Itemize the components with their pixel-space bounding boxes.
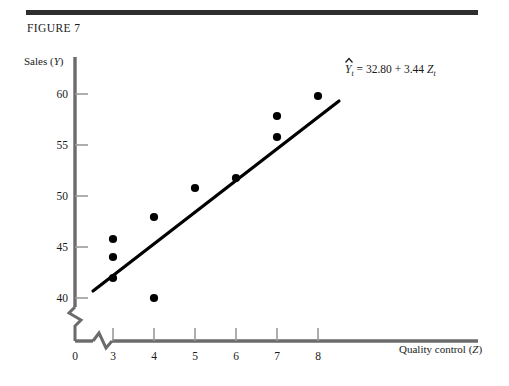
origin-label: 0	[72, 350, 78, 362]
data-point	[273, 133, 281, 141]
x-axis-break-mark	[93, 333, 112, 348]
data-point	[150, 213, 158, 221]
y-tick-label-55: 55	[57, 139, 69, 151]
regression-line-group	[93, 101, 339, 291]
figure-container: FIGURE 7 Sales (Y) Quality control (Z) 6…	[0, 0, 509, 386]
data-point	[150, 294, 158, 302]
y-tick-label-40: 40	[57, 292, 69, 304]
x-axis: 3 4 5 6 7 8 0	[72, 328, 478, 362]
equation-body: = 32.80 + 3.44	[354, 63, 427, 75]
regression-equation-annotation: Yt = 32.80 + 3.44 Zt	[345, 59, 436, 79]
x-tick-label-7: 7	[274, 350, 280, 362]
data-point	[109, 274, 117, 282]
y-tick-label-45: 45	[57, 241, 69, 253]
data-point	[273, 112, 281, 120]
data-point	[109, 253, 117, 261]
regression-equation: Yt = 32.80 + 3.44 Zt	[345, 63, 436, 78]
y-axis-ticks	[75, 94, 88, 298]
y-tick-label-60: 60	[57, 88, 69, 100]
y-axis: 60 55 50 45 40	[57, 57, 89, 341]
equation-tail-subscript: t	[433, 69, 436, 78]
x-tick-label-4: 4	[151, 350, 157, 362]
data-point	[191, 184, 199, 192]
x-tick-label-5: 5	[192, 350, 198, 362]
y-axis-break-mark	[69, 307, 81, 341]
x-axis-ticks	[113, 328, 318, 341]
data-point	[314, 92, 322, 100]
x-tick-label-3: 3	[110, 350, 116, 362]
scatter-plot: 60 55 50 45 40 3 4 5 6	[0, 0, 509, 386]
y-tick-label-50: 50	[57, 190, 69, 202]
data-point	[232, 174, 240, 182]
x-tick-label-8: 8	[315, 350, 321, 362]
data-point	[109, 235, 117, 243]
regression-line	[93, 101, 339, 291]
equation-hat-accent-icon	[346, 59, 353, 63]
x-tick-label-6: 6	[233, 350, 239, 362]
